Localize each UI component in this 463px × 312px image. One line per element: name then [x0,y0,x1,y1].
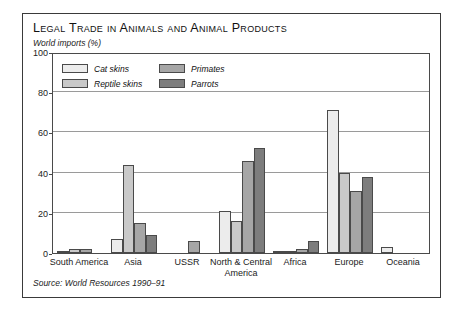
chart-title: Legal Trade in Animals and Animal Produc… [33,21,287,35]
chart-figure: Legal Trade in Animals and Animal Produc… [22,13,441,298]
bar [285,251,297,253]
bar [80,249,92,253]
legend-label: Reptile skins [94,79,142,89]
legend-label: Parrots [191,79,218,89]
bar [134,223,146,253]
legend-label: Cat skins [94,64,129,74]
bar [381,247,393,253]
legend-column-left: Cat skinsReptile skins [62,62,142,92]
bar [69,249,81,253]
bar [111,239,123,253]
bar [123,165,135,253]
legend-swatch [159,64,185,73]
bar-group [323,54,377,253]
bar [231,221,243,253]
bar [242,161,254,253]
y-axis-tick-label: 60 [38,128,48,138]
bar [57,251,69,253]
x-axis-label: Oceania [364,257,442,268]
bar-group [269,54,323,253]
legend-swatch [62,79,88,88]
bar [273,251,285,253]
bar [350,191,362,253]
legend-swatch [159,79,185,88]
legend-swatch [62,64,88,73]
chart-subtitle: World imports (%) [33,38,101,48]
bar [339,173,351,253]
bar-group [377,54,431,253]
bar [188,241,200,253]
bar [146,235,158,253]
chart-legend: Cat skinsReptile skins PrimatesParrots [56,59,251,67]
y-axis-tick-label: 80 [38,88,48,98]
bar [327,110,339,253]
legend-item: Parrots [159,77,225,90]
bar [362,177,374,253]
y-axis-tick-label: 40 [38,169,48,179]
bar [219,211,231,253]
legend-item: Cat skins [62,62,142,75]
legend-label: Primates [191,64,225,74]
y-axis: 020406080100 [23,53,52,254]
legend-column-right: PrimatesParrots [159,62,225,92]
y-axis-tick-label: 100 [33,48,48,58]
bar [296,249,308,253]
y-axis-tick-label: 20 [38,209,48,219]
bar [308,241,320,253]
bar [254,148,266,253]
legend-item: Reptile skins [62,77,142,90]
chart-source: Source: World Resources 1990–91 [33,278,165,288]
legend-item: Primates [159,62,225,75]
